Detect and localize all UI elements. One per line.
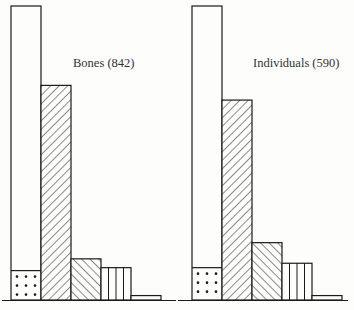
panel-title-individuals: Individuals (590) <box>253 56 339 71</box>
bar-chart <box>0 0 354 310</box>
panel-title-bones: Bones (842) <box>73 56 134 71</box>
chart-panel <box>2 6 176 301</box>
chart-panel <box>178 6 348 301</box>
